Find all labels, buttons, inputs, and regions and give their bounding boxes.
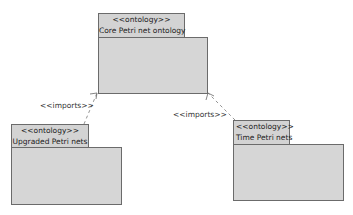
upgraded-package-tab[interactable]: <<ontology>> Upgraded Petri nets bbox=[11, 124, 89, 148]
upgraded-stereotype: <<ontology>> bbox=[12, 126, 88, 137]
core-name: Core Petri net ontology bbox=[99, 26, 184, 37]
upgraded-name: Upgraded Petri nets bbox=[12, 137, 88, 148]
upgraded-package-body[interactable] bbox=[11, 147, 122, 205]
time-stereotype: <<ontology>> bbox=[236, 122, 289, 133]
time-package-body[interactable] bbox=[233, 144, 344, 201]
time-name: Time Petri nets bbox=[236, 133, 289, 144]
imports-label-left: <<imports>> bbox=[40, 101, 94, 110]
core-stereotype: <<ontology>> bbox=[99, 15, 184, 26]
imports-label-right: <<imports>> bbox=[173, 110, 227, 119]
core-package-tab[interactable]: <<ontology>> Core Petri net ontology bbox=[98, 13, 185, 38]
time-package-tab[interactable]: <<ontology>> Time Petri nets bbox=[233, 120, 290, 145]
core-package-body[interactable] bbox=[98, 37, 208, 94]
